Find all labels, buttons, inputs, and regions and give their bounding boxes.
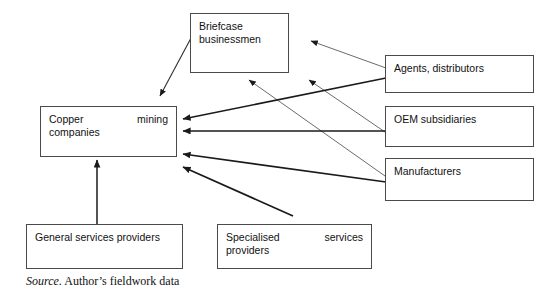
node-specialised-services-providers-line2: providers <box>226 244 363 257</box>
node-briefcase-businessmen-line2: businessmen <box>199 33 280 46</box>
node-oem-subsidiaries-line1: OEM subsidiaries <box>394 113 525 126</box>
node-manufacturers[interactable]: Manufacturers <box>385 158 534 201</box>
node-copper-mining-companies-line1: Copper mining <box>49 113 168 126</box>
edge-agents-to-copper <box>183 78 386 119</box>
node-copper-mining-companies-word1: Copper <box>49 113 83 126</box>
edge-oem-to-briefcase <box>309 80 385 132</box>
node-copper-mining-companies[interactable]: Copper mining companies <box>40 106 177 157</box>
node-specialised-services-providers[interactable]: Specialised services providers <box>217 224 372 269</box>
edge-briefcase-to-copper <box>160 39 191 96</box>
node-specialised-services-providers-word2: services <box>324 231 363 244</box>
source-text: Author’s fieldwork data <box>64 274 179 288</box>
node-general-services-providers[interactable]: General services providers <box>26 224 183 269</box>
diagram-canvas: Briefcase businessmen Copper mining comp… <box>0 0 557 293</box>
node-manufacturers-line1: Manufacturers <box>394 165 525 178</box>
node-agents-distributors-line1: Agents, distributors <box>394 62 525 75</box>
node-agents-distributors[interactable]: Agents, distributors <box>385 55 534 93</box>
node-briefcase-businessmen[interactable]: Briefcase businessmen <box>190 13 289 73</box>
node-specialised-services-providers-word1: Specialised <box>226 231 280 244</box>
node-briefcase-businessmen-line1: Briefcase <box>199 20 280 33</box>
source-label: Source. <box>26 274 62 288</box>
edge-manufacturers-to-copper <box>183 154 386 182</box>
edge-agents-to-briefcase <box>311 41 386 68</box>
source-caption: Source. Author’s fieldwork data <box>26 274 179 289</box>
node-copper-mining-companies-word2: mining <box>137 113 168 126</box>
node-general-services-providers-line1: General services providers <box>35 231 174 244</box>
node-specialised-services-providers-line1: Specialised services <box>226 231 363 244</box>
node-oem-subsidiaries[interactable]: OEM subsidiaries <box>385 106 534 147</box>
node-copper-mining-companies-line2: companies <box>49 126 168 139</box>
edge-specialised-to-copper <box>183 167 293 216</box>
edge-manufacturers-to-briefcase <box>249 80 385 176</box>
